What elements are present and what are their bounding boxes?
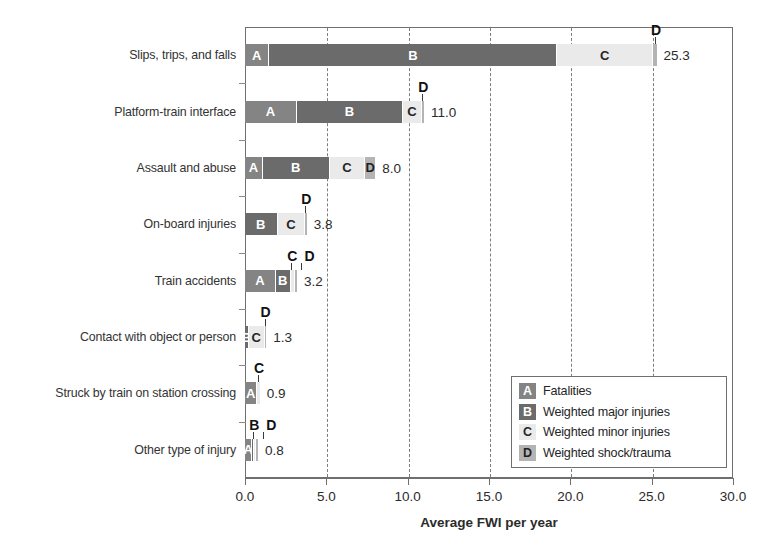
y-tick [239,422,246,423]
bar-segment-d[interactable]: D [365,157,375,179]
segment-letter: A [252,49,261,62]
bar-segment-d[interactable] [256,439,258,461]
bar-segment-b[interactable]: B [263,157,330,179]
category-label: Platform-train interface [114,105,236,119]
segment-letter: C [407,105,416,118]
x-tick [326,478,327,485]
segment-letter: B [345,105,354,118]
legend-item[interactable]: CWeighted minor injuries [519,422,720,443]
segment-letter: D [366,161,375,174]
stacked-bar[interactable]: ABCD [245,157,375,179]
bar-segment-d[interactable] [295,270,297,292]
y-tick [239,253,246,254]
y-tick [239,83,246,84]
stacked-bar[interactable]: A [245,439,258,461]
bar-row[interactable]: Assault and abuseABCD8.0 [245,140,733,196]
bar-segment-b[interactable]: B [297,101,403,123]
y-tick [239,140,246,141]
segment-letter: A [246,387,255,400]
bar-segment-d[interactable] [305,213,307,235]
callout-leader-line [263,432,264,439]
segment-letter: B [408,49,417,62]
bar-segment-a[interactable]: A [245,101,297,123]
bar-segment-a[interactable]: A [245,270,276,292]
category-label: Struck by train on station crossing [55,386,236,400]
bar-segment-c[interactable]: C [330,157,366,179]
bar-total-label: 25.3 [664,48,690,63]
x-tick-label: 20.0 [557,489,583,504]
segment-callout-d: D [261,305,271,319]
bar-total-label: 1.3 [273,330,292,345]
y-tick [239,309,246,310]
legend-letter: B [523,406,532,419]
bar-row[interactable]: Contact with object or personBC1.3D [245,309,733,365]
bar-segment-b[interactable]: B [276,270,291,292]
legend-item[interactable]: BWeighted major injuries [519,402,720,423]
bar-segment-d[interactable] [265,326,267,348]
legend-swatch-c: C [519,424,536,440]
bar-segment-c[interactable]: C [278,213,306,235]
legend-item[interactable]: DWeighted shock/trauma [519,443,720,464]
bar-total-label: 8.0 [382,160,401,175]
stacked-bar[interactable]: BC [245,213,307,235]
segment-letter: B [256,218,265,231]
x-tick [652,478,653,485]
bar-row[interactable]: Train accidentsAB3.2CD [245,253,733,309]
x-tick [489,478,490,485]
bar-segment-c[interactable]: C [403,101,423,123]
stacked-bar[interactable]: ABC [245,44,657,66]
bar-total-label: 0.9 [267,386,286,401]
callout-leader-line [253,432,254,439]
segment-callout-d: D [651,23,661,37]
stacked-bar[interactable]: A [245,382,260,404]
bar-total-label: 11.0 [431,104,456,119]
bar-segment-c[interactable]: C [249,326,264,348]
callout-leader-line [258,375,259,382]
segment-callout-d: D [266,418,276,432]
bar-row[interactable]: Platform-train interfaceABC11.0D [245,83,733,139]
legend-item[interactable]: AFatalities [519,381,720,402]
x-axis-title: Average FWI per year [245,515,733,530]
segment-letter: C [600,49,609,62]
segment-callout-d: D [304,249,314,263]
bar-segment-b[interactable]: B [245,213,278,235]
callout-leader-line [301,263,302,270]
bar-segment-d[interactable] [422,101,424,123]
bar-segment-d[interactable] [653,44,656,66]
legend-swatch-d: D [519,445,536,461]
stacked-bar[interactable]: AB [245,270,297,292]
bar-segment-b[interactable]: B [269,44,557,66]
segment-letter: B [291,161,300,174]
bar-segment-a[interactable]: A [245,439,252,461]
legend-label: Weighted minor injuries [543,425,670,439]
bar-segment-a[interactable]: A [245,44,269,66]
callout-leader-line [291,263,292,270]
x-tick-label: 5.0 [317,489,336,504]
legend-label: Weighted shock/trauma [543,446,671,460]
legend-label: Fatalities [543,384,591,398]
legend-letter: D [523,447,532,460]
bar-row[interactable]: On-board injuriesBC3.8D [245,196,733,252]
stacked-bar[interactable]: ABC [245,101,424,123]
callout-leader-line [305,206,306,213]
x-tick-label: 10.0 [395,489,421,504]
bar-segment-c[interactable] [257,382,259,404]
category-label: Other type of injury [134,443,236,457]
legend-letter: C [523,426,532,439]
callout-leader-line [265,319,266,326]
stacked-bar-chart: Slips, trips, and fallsABC25.3DPlatform-… [0,0,776,558]
bar-segment-a[interactable]: A [245,157,263,179]
y-tick [239,196,246,197]
segment-letter: C [342,161,351,174]
bar-segment-c[interactable]: C [557,44,653,66]
bar-segment-a[interactable]: A [245,382,257,404]
bar-row[interactable]: Slips, trips, and fallsABC25.3D [245,27,733,83]
legend-swatch-b: B [519,404,536,420]
bar-total-label: 3.8 [314,217,333,232]
stacked-bar[interactable]: BC [245,326,266,348]
legend-label: Weighted major injuries [543,405,670,419]
category-label: Slips, trips, and falls [129,48,236,62]
x-tick-label: 25.0 [639,489,665,504]
callout-leader-line [422,94,423,101]
bar-total-label: 0.8 [265,442,284,457]
